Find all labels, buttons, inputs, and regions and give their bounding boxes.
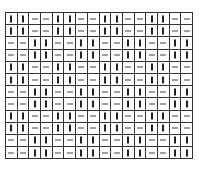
vertical-bar-icon xyxy=(92,88,94,95)
horizontal-dash-icon xyxy=(172,116,178,117)
horizontal-dash-icon xyxy=(102,103,108,104)
horizontal-dash-icon xyxy=(55,91,61,92)
grid-cell xyxy=(18,74,30,86)
vertical-bar-icon xyxy=(80,88,82,95)
vertical-bar-icon xyxy=(57,27,59,34)
grid-cell xyxy=(135,123,147,135)
grid-cell xyxy=(76,25,88,37)
grid-cell xyxy=(158,147,170,159)
horizontal-dash-icon xyxy=(67,103,73,104)
grid-cell xyxy=(181,123,193,135)
vertical-bar-icon xyxy=(104,76,106,83)
grid-cell xyxy=(53,98,65,110)
horizontal-dash-icon xyxy=(114,42,120,43)
horizontal-dash-icon xyxy=(137,116,143,117)
vertical-bar-icon xyxy=(10,113,12,120)
grid-cell xyxy=(135,13,147,25)
grid-cell xyxy=(76,13,88,25)
grid-cell xyxy=(41,86,53,98)
horizontal-dash-icon xyxy=(114,55,120,56)
grid-cell xyxy=(64,86,76,98)
horizontal-dash-icon xyxy=(184,116,190,117)
vertical-bar-icon xyxy=(186,39,188,46)
grid-cell xyxy=(88,135,100,147)
horizontal-dash-icon xyxy=(160,103,166,104)
horizontal-dash-icon xyxy=(8,91,14,92)
grid-cell xyxy=(53,13,65,25)
vertical-bar-icon xyxy=(80,52,82,59)
horizontal-dash-icon xyxy=(67,140,73,141)
grid-cell xyxy=(181,147,193,159)
grid-cell xyxy=(41,74,53,86)
grid-cell xyxy=(88,147,100,159)
vertical-bar-icon xyxy=(151,64,153,71)
horizontal-dash-icon xyxy=(90,128,96,129)
grid-cell xyxy=(146,135,158,147)
grid-cell xyxy=(146,25,158,37)
grid-cell xyxy=(53,86,65,98)
vertical-bar-icon xyxy=(45,137,47,144)
horizontal-dash-icon xyxy=(172,67,178,68)
vertical-bar-icon xyxy=(127,88,129,95)
grid-cell xyxy=(146,123,158,135)
vertical-bar-icon xyxy=(186,149,188,156)
horizontal-dash-icon xyxy=(78,67,84,68)
grid-cell xyxy=(53,111,65,123)
grid-cell xyxy=(18,37,30,49)
grid-cell xyxy=(88,123,100,135)
grid-cell xyxy=(29,25,41,37)
grid-cell xyxy=(181,135,193,147)
vertical-bar-icon xyxy=(127,52,129,59)
grid-cell xyxy=(6,135,18,147)
grid-cell xyxy=(135,111,147,123)
grid-cell xyxy=(146,147,158,159)
horizontal-dash-icon xyxy=(160,140,166,141)
vertical-bar-icon xyxy=(34,149,36,156)
vertical-bar-icon xyxy=(127,149,129,156)
grid-cell xyxy=(29,147,41,159)
vertical-bar-icon xyxy=(127,100,129,107)
horizontal-dash-icon xyxy=(78,30,84,31)
grid-cell xyxy=(158,111,170,123)
horizontal-dash-icon xyxy=(55,140,61,141)
vertical-bar-icon xyxy=(186,100,188,107)
vertical-bar-icon xyxy=(57,113,59,120)
grid-cell xyxy=(123,135,135,147)
horizontal-dash-icon xyxy=(78,116,84,117)
grid-cell xyxy=(170,62,182,74)
grid-cell xyxy=(181,111,193,123)
grid-cell xyxy=(111,62,123,74)
horizontal-dash-icon xyxy=(114,91,120,92)
grid-cell xyxy=(181,50,193,62)
grid-cell xyxy=(158,86,170,98)
vertical-bar-icon xyxy=(80,149,82,156)
grid-cell xyxy=(135,86,147,98)
grid-cell xyxy=(29,37,41,49)
horizontal-dash-icon xyxy=(114,103,120,104)
grid-cell xyxy=(181,98,193,110)
grid-cell xyxy=(64,123,76,135)
grid-cell xyxy=(181,86,193,98)
horizontal-dash-icon xyxy=(160,55,166,56)
grid-cell xyxy=(170,147,182,159)
vertical-bar-icon xyxy=(69,27,71,34)
horizontal-dash-icon xyxy=(149,152,155,153)
grid-cell xyxy=(41,62,53,74)
horizontal-dash-icon xyxy=(160,42,166,43)
grid-cell xyxy=(88,86,100,98)
vertical-bar-icon xyxy=(162,64,164,71)
horizontal-dash-icon xyxy=(8,55,14,56)
grid-cell xyxy=(135,50,147,62)
grid-cell xyxy=(111,25,123,37)
grid-cell xyxy=(76,74,88,86)
grid-cell xyxy=(6,37,18,49)
grid-cell xyxy=(64,135,76,147)
grid-cell xyxy=(18,25,30,37)
grid-cell xyxy=(170,111,182,123)
horizontal-dash-icon xyxy=(67,55,73,56)
horizontal-dash-icon xyxy=(137,30,143,31)
horizontal-dash-icon xyxy=(125,18,131,19)
horizontal-dash-icon xyxy=(43,128,49,129)
grid-cell xyxy=(53,62,65,74)
horizontal-dash-icon xyxy=(149,140,155,141)
